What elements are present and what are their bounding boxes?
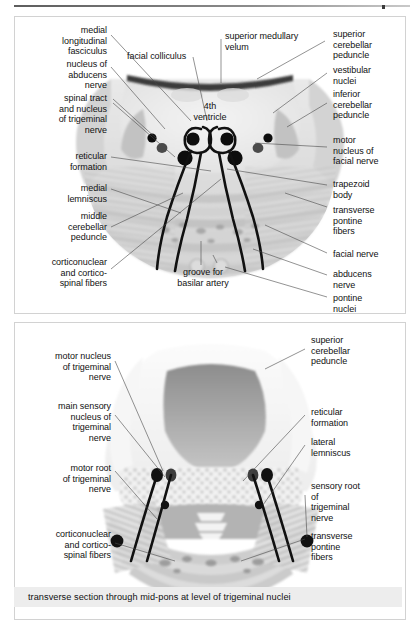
label-middle-cerebellar-peduncle: middle cerebellar peduncle (15, 211, 107, 243)
label-inferior-cerebellar-peduncle: inferior cerebellar peduncle (333, 89, 405, 121)
header-rule (14, 5, 410, 7)
label-transverse-pontine-fibers-lower: transverse pontine fibers (311, 531, 391, 563)
caption-mid-pons: transverse section through mid-pons at l… (14, 587, 402, 607)
label-medial-lemniscus: medial lemniscus (15, 183, 107, 204)
label-main-sensory-nucleus-of-trigeminal-nerve: main sensory nucleus of trigeminal nerve (7, 401, 111, 443)
label-facial-colliculus: facial colliculus (127, 51, 207, 62)
label-corticonuclear-and-corticospinal-fibers-lower: corticonuclear and cortico- spinal fiber… (7, 529, 111, 561)
label-groove-for-basilar-artery: groove for basilar artery (161, 267, 245, 288)
label-lateral-lemniscus: lateral lemniscus (311, 437, 391, 458)
label-reticular-formation-lower: reticular formation (311, 407, 391, 428)
label-sensory-root-of-trigeminal-nerve: sensory root of trigeminal nerve (311, 481, 395, 523)
label-transverse-pontine-fibers: transverse pontine fibers (333, 205, 405, 237)
label-abducens-nerve: abducens nerve (333, 269, 405, 290)
label-pontine-nuclei: pontine nuclei (333, 293, 405, 314)
figure-page: medial longitudinal fasciculus nucleus o… (0, 0, 416, 629)
label-trapezoid-body: trapezoid body (333, 179, 405, 200)
label-motor-root-of-trigeminal-nerve: motor root of trigeminal nerve (7, 463, 111, 495)
label-medial-longitudinal-fasciculus: medial longitudinal fasciculus (15, 25, 107, 57)
label-motor-nucleus-of-facial-nerve: motor nucleus of facial nerve (333, 135, 405, 167)
label-reticular-formation: reticular formation (15, 151, 107, 172)
label-facial-nerve: facial nerve (333, 249, 409, 260)
label-spinal-tract-and-nucleus-of-trigeminal-nerve: spinal tract and nucleus of trigeminal n… (15, 93, 107, 135)
label-nucleus-of-abducens-nerve: nucleus of abducens nerve (15, 59, 107, 91)
panel-caudal-pons: medial longitudinal fasciculus nucleus o… (14, 16, 406, 314)
label-superior-cerebellar-peduncle-lower: superior cerebellar peduncle (311, 335, 391, 367)
label-vestibular-nuclei: vestibular nuclei (333, 65, 405, 86)
label-superior-medullary-velum: superior medullary velum (225, 31, 325, 52)
header-tick-mark (382, 5, 385, 9)
label-4th-ventricle: 4th ventricle (175, 101, 245, 122)
label-motor-nucleus-of-trigeminal-nerve: motor nucleus of trigeminal nerve (7, 351, 111, 383)
label-superior-cerebellar-peduncle: superior cerebellar peduncle (333, 29, 405, 61)
label-corticonuclear-and-corticospinal-fibers: corticonuclear and cortico- spinal fiber… (9, 257, 107, 289)
panel-mid-pons: motor nucleus of trigeminal nerve main s… (14, 322, 406, 620)
